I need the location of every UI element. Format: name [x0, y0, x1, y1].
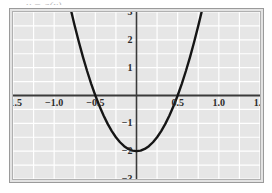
- x-tick-label: −1.5: [12, 98, 22, 108]
- y-tick-label: −2: [122, 146, 133, 156]
- x-tick-label: 1.0: [213, 98, 226, 108]
- chart-screenshot: y = g(x) −1.5−1.0−0.50.51.01.5321−1−2−3: [0, 0, 272, 193]
- x-tick-label: 0.5: [171, 98, 184, 108]
- x-tick-label: −0.5: [86, 98, 104, 108]
- y-tick-label: 1: [128, 63, 133, 73]
- figure-frame: −1.5−1.0−0.50.51.01.5321−1−2−3: [9, 8, 264, 183]
- y-tick-label: −1: [122, 118, 133, 128]
- parabola-plot: [13, 12, 260, 179]
- y-tick-label: −3: [122, 174, 133, 180]
- y-tick-label: 2: [128, 35, 133, 45]
- plot-area: −1.5−1.0−0.50.51.01.5321−1−2−3: [12, 11, 261, 180]
- y-tick-label: 3: [128, 11, 133, 17]
- x-tick-label: 1.5: [254, 98, 261, 108]
- x-tick-label: −1.0: [45, 98, 63, 108]
- cropped-caption-text: y = g(x): [26, 0, 176, 5]
